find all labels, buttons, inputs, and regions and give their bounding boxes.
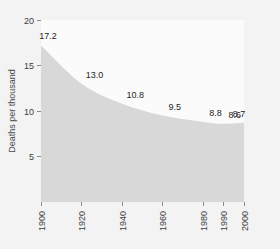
y-tick-label-20: 20 (24, 16, 34, 26)
y-tick-label-5: 5 (29, 152, 34, 162)
y-tick-label-15: 15 (24, 61, 34, 71)
data-label-1900: 17.2 (39, 31, 57, 41)
x-tick-label-1920: 1920 (77, 211, 87, 231)
data-label-1980: 8.8 (209, 108, 222, 118)
chart-canvas: 5101520 1900192019401960198019902000 Dea… (0, 0, 280, 249)
data-label-2000: 8.7 (233, 109, 246, 119)
y-tick-label-10: 10 (24, 107, 34, 117)
x-tick-label-1900: 1900 (37, 211, 47, 231)
data-label-1920: 13.0 (86, 70, 104, 80)
x-tick-label-1960: 1960 (158, 211, 168, 231)
x-tick-label-1990: 1990 (219, 211, 229, 231)
x-tick-label-1980: 1980 (199, 211, 209, 231)
y-axis-title: Deaths per thousand (7, 69, 17, 153)
area-chart: 5101520 1900192019401960198019902000 Dea… (0, 0, 280, 249)
x-tick-label-1940: 1940 (118, 211, 128, 231)
data-label-1960: 9.5 (169, 102, 182, 112)
data-label-1940: 10.8 (126, 90, 144, 100)
x-tick-label-2000: 2000 (240, 211, 250, 231)
